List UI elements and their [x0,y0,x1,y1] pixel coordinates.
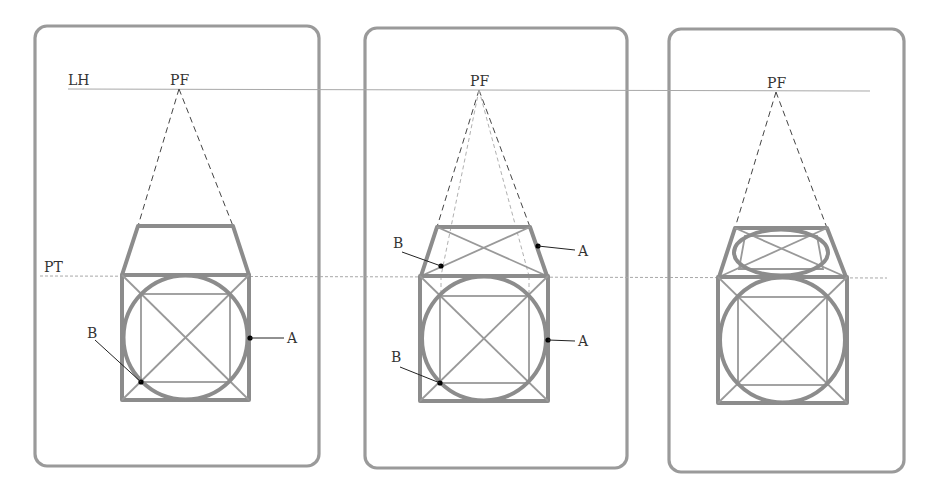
point-b-front-label: B [391,349,401,365]
point-a-label: A [286,330,298,346]
ground-label: PT [44,259,63,275]
point-b-label: B [87,325,97,341]
vanishing-point-label: PF [470,73,489,89]
vanishing-point-label: PF [767,75,786,91]
point-b-top-label: B [393,235,403,251]
perspective-diagram: LH PT PF A B PF [0,0,941,503]
point-a-front-label: A [577,333,589,349]
point-a-top-label: A [577,243,589,259]
horizon-label: LH [68,72,90,88]
vanishing-point-label: PF [170,72,189,88]
